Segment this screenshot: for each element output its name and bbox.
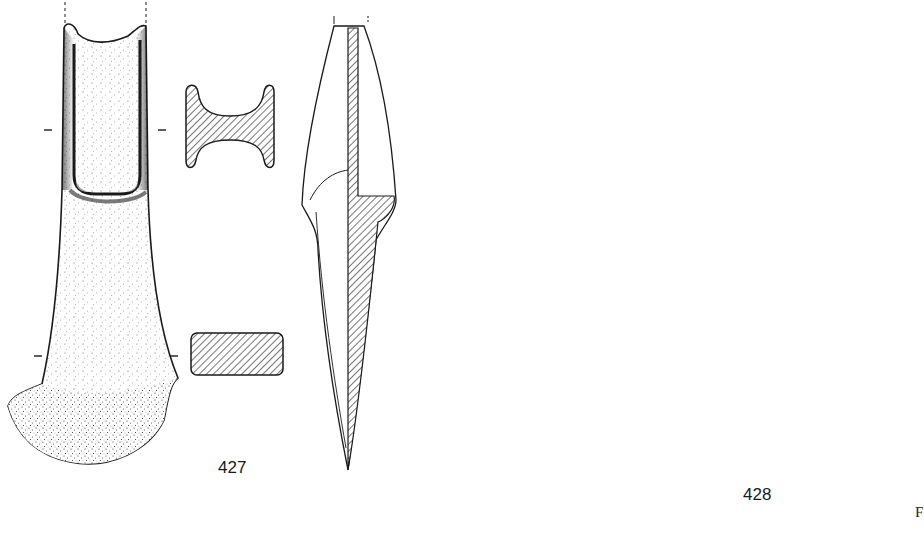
illustration-plate: 427 428 F 4 e [0, 0, 924, 535]
catalogue-number-427: 427 [218, 459, 246, 476]
axe-427-section-butt [186, 85, 274, 167]
catalogue-number-428: 428 [743, 486, 771, 503]
axe-427-section-blade [191, 333, 283, 375]
caption-fragment: F 4 e [915, 464, 924, 535]
caption-line-1: F [915, 503, 924, 523]
axe-427-side-profile [302, 16, 396, 470]
axe-427-front-view [8, 2, 178, 464]
